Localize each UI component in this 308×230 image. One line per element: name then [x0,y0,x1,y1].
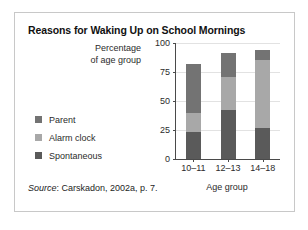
bar-segment[interactable] [255,60,270,127]
legend-swatch-icon [35,134,42,141]
y-axis-tick-mark [173,43,176,44]
legend-swatch-icon [35,152,42,159]
plot-wrapper: 025507510010–1112–1314–18 Age group [146,39,286,189]
y-axis-tick-mark [173,101,176,102]
y-axis-tick-mark [173,72,176,73]
bar-segment[interactable] [255,50,270,60]
y-axis-title-line2: of age group [59,55,141,67]
source-text: : Carskadon, 2002a, p. 7. [57,183,158,193]
bar-segment[interactable] [186,64,201,113]
y-axis-tick-label: 100 [144,38,170,48]
x-axis-tick-label: 14–18 [250,163,275,173]
legend-item: Spontaneous [35,148,102,163]
bar-segment[interactable] [221,77,236,111]
figure-panel: Reasons for Waking Up on School Mornings… [14,12,295,212]
x-axis-tick-mark [193,159,194,162]
bar-segment[interactable] [221,110,236,159]
x-axis-tick-mark [228,159,229,162]
page-title: Reasons for Waking Up on School Mornings [28,24,245,36]
bar-segment[interactable] [221,53,236,76]
x-axis-tick-mark [263,159,264,162]
y-axis-tick-mark [173,130,176,131]
bar-segment[interactable] [186,132,201,159]
y-axis-tick-label: 25 [144,125,170,135]
y-axis-tick-label: 75 [144,67,170,77]
chart-legend: ParentAlarm clockSpontaneous [35,112,102,166]
y-axis-title-line1: Percentage [59,43,141,55]
bar-segment[interactable] [186,113,201,133]
y-axis-tick-label: 50 [144,96,170,106]
y-axis-tick-mark [173,159,176,160]
legend-swatch-icon [35,116,42,123]
legend-item-label: Parent [49,115,76,125]
plot-area: 025507510010–1112–1314–18 [175,43,280,160]
legend-item: Alarm clock [35,130,102,145]
y-axis-tick-label: 0 [144,154,170,164]
bar-segment[interactable] [255,128,270,159]
x-axis-title: Age group [175,182,279,192]
bar-stack[interactable] [186,43,201,159]
y-axis-title: Percentage of age group [59,43,141,66]
x-axis-tick-label: 10–11 [181,163,205,173]
legend-item-label: Spontaneous [49,151,102,161]
source-note: Source: Carskadon, 2002a, p. 7. [28,183,158,193]
bar-stack[interactable] [255,43,270,159]
legend-item-label: Alarm clock [49,133,96,143]
bar-stack[interactable] [221,43,236,159]
legend-item: Parent [35,112,102,127]
x-axis-tick-label: 12–13 [215,163,240,173]
source-label: Source [28,183,57,193]
